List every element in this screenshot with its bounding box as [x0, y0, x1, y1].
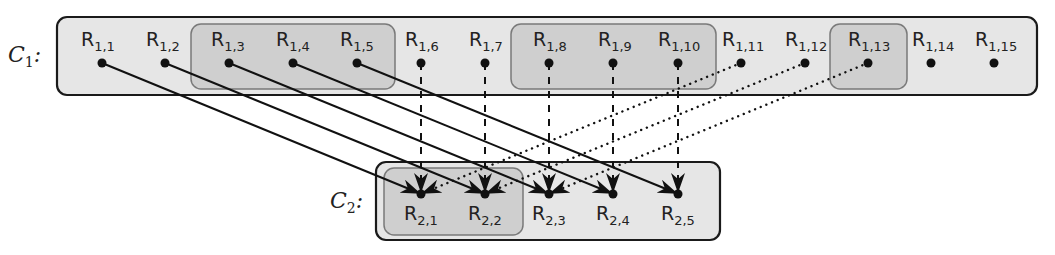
cluster-c1-label: C1: [8, 42, 41, 70]
cluster-c2-label: C2: [330, 188, 363, 216]
cluster-c2: C2: [330, 162, 720, 240]
cluster-mapping-diagram: C1: C2: R1,1 R1,2 R1,3 R1,4 R1,5 R1,6 R1… [0, 0, 1055, 255]
c1-group-3 [830, 24, 907, 89]
cluster-c1: C1: [8, 17, 1037, 95]
